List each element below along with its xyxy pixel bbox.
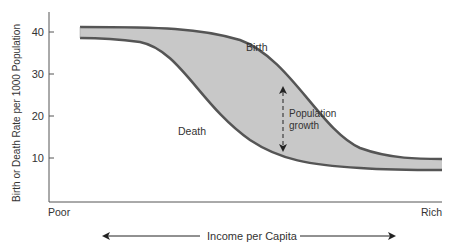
y-ticks: [49, 32, 54, 158]
population-growth-label-2: growth: [289, 120, 319, 131]
ytick-40: 40: [32, 26, 44, 38]
ytick-10: 10: [32, 152, 44, 164]
birth-label: Birth: [246, 41, 268, 53]
x-axis-label: Income per Capita: [207, 230, 298, 242]
ytick-20: 20: [32, 110, 44, 122]
x-label-poor: Poor: [48, 206, 71, 218]
x-label-rich: Rich: [421, 206, 442, 218]
chart: 40 30 20 10 Birth or Death Rate per 1000…: [0, 0, 454, 248]
y-axis-label: Birth or Death Rate per 1000 Population: [11, 24, 22, 202]
death-label: Death: [178, 125, 206, 137]
population-growth-label-1: Population: [289, 108, 336, 119]
ytick-30: 30: [32, 68, 44, 80]
